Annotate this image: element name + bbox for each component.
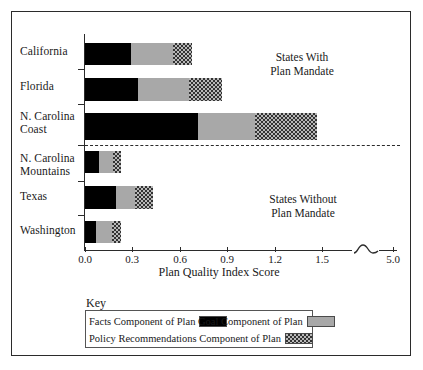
bar-segment-facts bbox=[85, 151, 99, 173]
bar-segment-policy bbox=[255, 113, 318, 140]
category-label-texas: Texas bbox=[20, 190, 47, 203]
x-axis-title: Plan Quality Index Score bbox=[85, 265, 353, 280]
bar-segment-goal bbox=[138, 78, 188, 101]
x-axis-tick bbox=[227, 247, 228, 252]
x-axis-tick bbox=[393, 247, 394, 252]
y-axis-line bbox=[84, 34, 85, 250]
bar-segment-policy bbox=[112, 221, 121, 243]
category-label-florida: Florida bbox=[20, 80, 54, 93]
category-label-california: California bbox=[20, 45, 68, 58]
legend-item-policy[interactable]: Policy Recommendations Component of Plan bbox=[89, 331, 313, 345]
annotation-states-with-plan-mandate: States With Plan Mandate bbox=[242, 50, 362, 78]
bar-segment-facts bbox=[85, 221, 96, 243]
bar-segment-policy bbox=[189, 78, 222, 101]
bar-segment-facts bbox=[85, 186, 116, 209]
bar-segment-policy bbox=[113, 151, 121, 173]
x-axis-tick-label: 1.5 bbox=[315, 253, 329, 265]
bar-row bbox=[85, 151, 121, 173]
x-axis-tick bbox=[322, 247, 323, 252]
bar-segment-goal bbox=[131, 43, 173, 65]
bar-segment-facts bbox=[85, 113, 198, 140]
bar-row bbox=[85, 221, 121, 243]
bar-segment-policy bbox=[135, 186, 152, 209]
bar-segment-goal bbox=[99, 151, 113, 173]
axis-break-icon bbox=[352, 241, 380, 257]
bar-segment-goal bbox=[198, 113, 255, 140]
x-axis-tick bbox=[132, 247, 133, 252]
y-axis-tick bbox=[78, 215, 85, 216]
x-axis-tick bbox=[180, 247, 181, 252]
bar-segment-goal bbox=[116, 186, 135, 209]
legend-label-policy: Policy Recommendations Component of Plan bbox=[89, 333, 281, 344]
category-label-n-carolina-mountains: N. Carolina Mountains bbox=[20, 152, 75, 177]
y-axis-tick bbox=[78, 69, 85, 70]
plot-area: California Florida N. Carolina Coast N. … bbox=[0, 0, 423, 370]
x-axis-tick-label: 0.3 bbox=[125, 253, 139, 265]
x-axis-line-tail bbox=[379, 250, 397, 251]
bar-segment-facts bbox=[85, 78, 138, 101]
x-axis-tick-label: 1.2 bbox=[268, 253, 282, 265]
x-axis-line bbox=[84, 250, 352, 251]
key-title: Key bbox=[86, 296, 106, 311]
legend-swatch-goal bbox=[307, 316, 335, 327]
x-axis-tick bbox=[85, 247, 86, 252]
legend-label-goal: Goal Component of Plan bbox=[198, 316, 303, 327]
bar-segment-goal bbox=[96, 221, 112, 243]
legend-swatch-policy bbox=[285, 333, 313, 344]
category-label-washington: Washington bbox=[20, 224, 76, 237]
bar-row bbox=[85, 43, 192, 65]
chart-figure: California Florida N. Carolina Coast N. … bbox=[0, 0, 423, 370]
x-axis-tick-label: 0.6 bbox=[173, 253, 187, 265]
category-label-n-carolina-coast: N. Carolina Coast bbox=[20, 110, 75, 135]
y-axis-tick bbox=[78, 181, 85, 182]
legend-item-goal[interactable]: Goal Component of Plan bbox=[198, 314, 335, 328]
bar-row bbox=[85, 186, 153, 209]
y-axis-tick bbox=[78, 104, 85, 105]
annotation-states-without-plan-mandate: States Without Plan Mandate bbox=[238, 192, 368, 220]
y-axis-tick bbox=[78, 145, 85, 146]
bar-segment-policy bbox=[173, 43, 192, 65]
bar-segment-facts bbox=[85, 43, 131, 65]
bar-row bbox=[85, 113, 317, 140]
legend-label-facts: Facts Component of Plan bbox=[89, 316, 195, 327]
x-axis-tick-label: 0.9 bbox=[220, 253, 234, 265]
x-axis-tick bbox=[275, 247, 276, 252]
group-divider-dashed bbox=[85, 145, 400, 146]
bar-row bbox=[85, 78, 222, 101]
x-axis-tick-label: 5.0 bbox=[386, 253, 400, 265]
x-axis-tick-label: 0.0 bbox=[78, 253, 92, 265]
